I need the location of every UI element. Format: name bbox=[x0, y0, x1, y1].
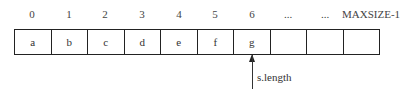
array-cell: g bbox=[234, 30, 271, 54]
index-label: 0 bbox=[14, 8, 50, 20]
array-cells: a b c d e f g bbox=[14, 29, 380, 55]
index-ellipsis: ... bbox=[307, 8, 343, 20]
pointer-arrow-line bbox=[252, 55, 253, 89]
pointer-label: s.length bbox=[257, 71, 292, 83]
index-label: 3 bbox=[124, 8, 160, 20]
array-cell: d bbox=[125, 30, 162, 54]
index-ellipsis: ... bbox=[270, 8, 306, 20]
index-label: 4 bbox=[161, 8, 197, 20]
array-cell: f bbox=[198, 30, 235, 54]
array-cell: a bbox=[15, 30, 52, 54]
index-label: 1 bbox=[51, 8, 87, 20]
array-cell: c bbox=[88, 30, 125, 54]
array-cell-empty bbox=[307, 30, 344, 54]
array-cell-empty bbox=[271, 30, 308, 54]
index-label: 5 bbox=[197, 8, 233, 20]
array-cell: e bbox=[161, 30, 198, 54]
index-label: 2 bbox=[87, 8, 123, 20]
index-label: 6 bbox=[234, 8, 270, 20]
array-cell-empty bbox=[344, 30, 381, 54]
array-cell: b bbox=[52, 30, 89, 54]
index-label-maxsize: MAXSIZE-1 bbox=[342, 8, 412, 20]
